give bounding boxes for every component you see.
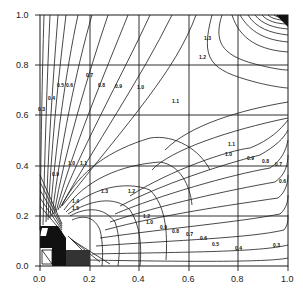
svg-text:1.0: 1.0 (68, 160, 75, 166)
y-tick-label: 0.2 (16, 211, 29, 221)
svg-text:0.9: 0.9 (160, 224, 167, 230)
svg-text:0.6: 0.6 (200, 235, 207, 241)
svg-text:0.4: 0.4 (235, 245, 242, 251)
y-tick-label: 0.4 (16, 161, 29, 171)
y-axis: 1.0 0.8 0.6 0.4 0.2 0.0 (16, 10, 40, 271)
x-tick-label: 0.8 (231, 274, 244, 284)
svg-text:0.8: 0.8 (262, 158, 269, 164)
svg-text:1.0: 1.0 (225, 151, 232, 157)
svg-text:1.0: 1.0 (137, 84, 144, 90)
svg-text:0.6: 0.6 (279, 178, 286, 184)
y-tick-label: 0.6 (16, 110, 29, 120)
svg-text:0.8: 0.8 (98, 82, 105, 88)
svg-text:1.1: 1.1 (80, 160, 87, 166)
svg-text:1.1: 1.1 (172, 98, 179, 104)
y-tick-label: 0.0 (16, 261, 29, 271)
x-axis: 0.0 0.2 0.4 0.6 0.8 1.0 (33, 266, 294, 284)
svg-text:1.5: 1.5 (72, 205, 79, 211)
svg-text:0.9: 0.9 (115, 83, 122, 89)
svg-text:0.5: 0.5 (57, 82, 64, 88)
x-tick-label: 0.4 (132, 274, 145, 284)
svg-text:0.9: 0.9 (247, 155, 254, 161)
svg-text:0.6: 0.6 (66, 82, 73, 88)
contour-chart: 0.3 0.4 0.5 0.6 0.7 0.8 0.9 1.0 1.1 1.2 … (0, 0, 303, 298)
svg-text:0.7: 0.7 (186, 231, 193, 237)
y-tick-label: 1.0 (16, 10, 29, 20)
svg-text:0.3: 0.3 (273, 242, 280, 248)
svg-text:1.3: 1.3 (204, 35, 211, 41)
svg-text:1.1: 1.1 (228, 141, 235, 147)
svg-text:0.4: 0.4 (48, 95, 55, 101)
svg-text:1.3: 1.3 (101, 188, 108, 194)
svg-text:0.3: 0.3 (38, 106, 45, 112)
svg-text:1.2: 1.2 (128, 188, 135, 194)
svg-text:0.9: 0.9 (52, 171, 59, 177)
x-tick-label: 0.6 (182, 274, 195, 284)
svg-text:0.7: 0.7 (86, 72, 93, 78)
svg-text:0.8: 0.8 (172, 228, 179, 234)
x-tick-label: 1.0 (281, 274, 294, 284)
svg-text:1.0: 1.0 (146, 219, 153, 225)
svg-text:0.5: 0.5 (212, 241, 219, 247)
svg-text:1.2: 1.2 (199, 54, 206, 60)
x-tick-label: 0.2 (83, 274, 96, 284)
y-tick-label: 0.8 (16, 60, 29, 70)
svg-text:1.4: 1.4 (72, 198, 79, 204)
svg-text:0.7: 0.7 (275, 161, 282, 167)
x-tick-label: 0.0 (33, 274, 46, 284)
